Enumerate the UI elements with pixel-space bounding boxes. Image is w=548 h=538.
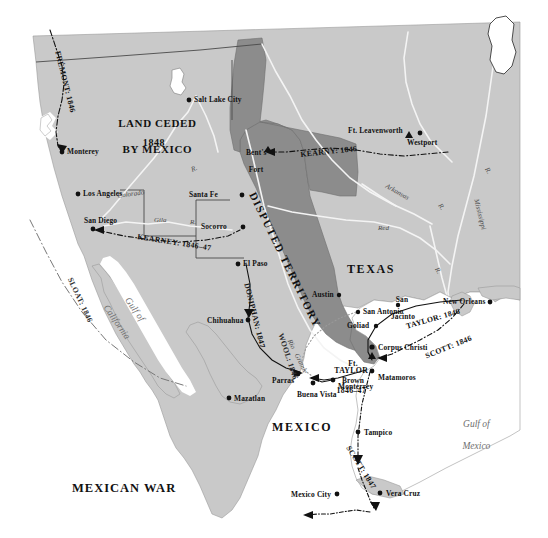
city-label-new-orleans: New Orleans [443,297,486,306]
taylor-inland-line2: 1846–47 [337,386,366,395]
marker-vera-cruz [378,491,383,496]
city-label-austin: Austin [312,290,334,299]
marker-el-paso [236,262,241,267]
city-label-chihuahua: Chihuahua [207,316,244,325]
marker-chihuahua [246,318,251,323]
bents-fort-line2: Fort [249,165,264,174]
region-label-land-ceded: LAND CEDED BY MEXICO [96,104,212,156]
city-label-goliad: Goliad [347,321,369,330]
city-label-monterey-ca: Monterey [67,147,99,156]
marker-westport [418,131,423,136]
city-label-mexico-city: Mexico City [291,490,331,499]
city-label-san-jacinto: San Jacinto [387,287,413,321]
marker-mazatlan [227,396,232,401]
city-label-vera-cruz: Vera Cruz [386,489,420,498]
city-label-los-angeles: Los Angeles [83,189,122,198]
city-label-san-diego: San Diego [84,216,117,225]
city-label-ft-leavenworth: Ft. Leavenworth [348,126,403,135]
gulf-california-line1: Gulf of [123,295,146,323]
city-label-salt-lake-city: Salt Lake City [194,95,242,104]
marker-monterey-ca [60,150,65,155]
city-label-westport: Westport [407,138,437,147]
map-title: MEXICAN WAR [72,481,176,496]
city-label-mazatlan: Mazatlan [234,394,265,403]
map-canvas [0,0,548,538]
great-lake-michigan [488,16,516,74]
city-label-santa-fe: Santa Fe [189,190,218,199]
marker-goliad [374,324,378,328]
gulf-mexico-line1: Gulf of [463,419,490,429]
marker-salt-lake-city [187,98,192,103]
river-label-gila-abbrev: R. [190,218,196,226]
marker-socorro [241,225,246,230]
city-label-el-paso: El Paso [243,259,268,268]
city-label-socorro: Socorro [201,222,227,231]
region-label-texas: TEXAS [347,262,395,277]
taylor-inland-line1: TAYLOR [334,366,368,375]
city-label-corpus-christi: Corpus Christi [378,343,428,352]
marker-santa-fe [240,193,245,198]
marker-san-antonio [356,310,360,314]
water-label-gulf-of-mexico: Gulf of Mexico [444,408,504,452]
region-land-ceded-line1: LAND CEDED [118,117,196,129]
marker-tampico [356,430,361,435]
mexican-war-map: LAND CEDED BY MEXICO 1848 DISPUTED TERRI… [0,0,548,538]
city-label-matamoros: Matamoros [378,373,416,382]
city-label-bents-fort: Bent's Fort [242,140,266,174]
gulf-mexico-line2: Mexico [462,441,490,451]
bents-fort-line1: Bent's [246,148,267,157]
river-label-red: Red [378,224,389,232]
route-label-taylor-inland: TAYLOR 1846–47 [325,356,373,396]
marker-corpus-christi [369,344,374,349]
river-label-gila: Gila [154,216,166,224]
city-label-tampico: Tampico [364,428,392,437]
region-label-mexico: MEXICO [272,420,332,435]
san-jacinto-line1: San [396,295,408,304]
marker-mexico-city [335,492,340,497]
marker-los-angeles [76,192,81,197]
marker-austin [337,293,341,297]
marker-new-orleans [488,300,493,305]
marker-buena-vista [311,381,316,386]
marker-san-diego [91,227,96,232]
region-land-ceded-year: 1848 [96,137,212,148]
